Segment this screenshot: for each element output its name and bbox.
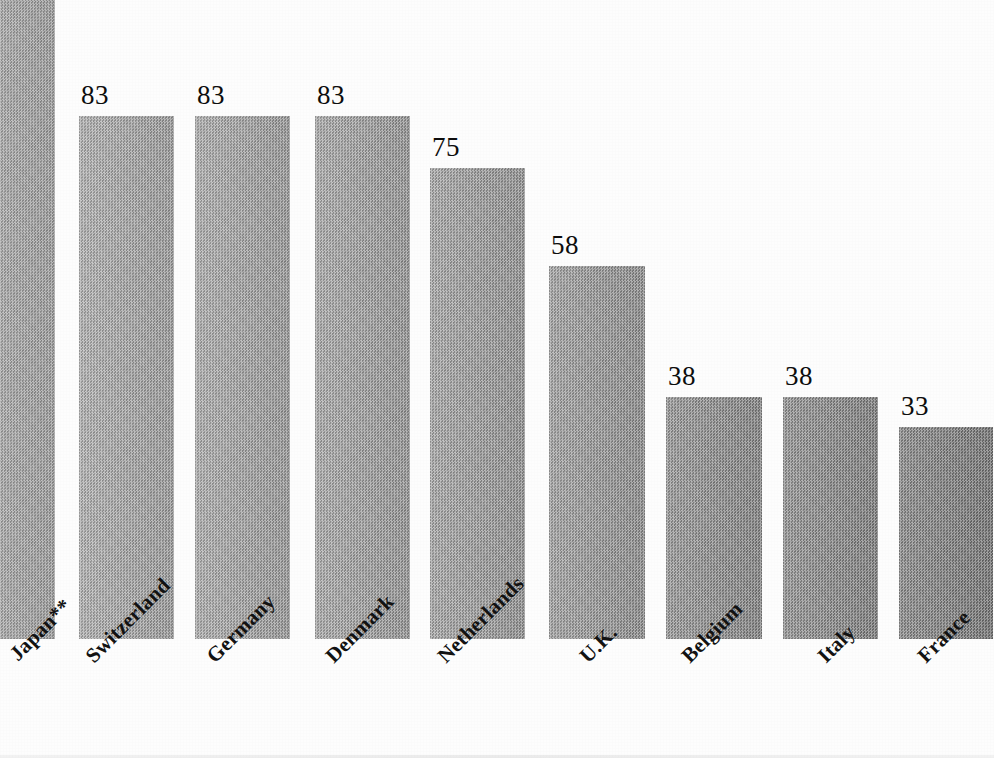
bar-shading <box>195 116 290 639</box>
bar <box>195 116 290 639</box>
category-axis-labels: Japan**SwitzerlandGermanyDenmarkNetherla… <box>0 640 994 758</box>
bar <box>549 266 645 639</box>
bar-value-label: 58 <box>551 232 579 259</box>
bar-value-label: 83 <box>197 82 225 109</box>
plot-area: 8383837558383833 <box>0 0 994 640</box>
bar <box>79 116 174 639</box>
bar-value-label: 33 <box>901 393 929 420</box>
bar-shading <box>315 116 410 639</box>
bar-chart: 8383837558383833 Japan**SwitzerlandGerma… <box>0 0 994 758</box>
bar <box>899 427 993 639</box>
bar-value-label: 83 <box>81 82 109 109</box>
bar <box>666 397 762 639</box>
bar-value-label: 83 <box>317 82 345 109</box>
bar-shading <box>0 0 55 639</box>
bar-shading <box>666 397 762 639</box>
bar <box>430 168 525 639</box>
bar-value-label: 38 <box>785 363 813 390</box>
bar-value-label: 38 <box>668 363 696 390</box>
bar <box>783 397 878 639</box>
bar-value-label: 75 <box>432 134 460 161</box>
bar-shading <box>783 397 878 639</box>
bar-shading <box>549 266 645 639</box>
bar-shading <box>79 116 174 639</box>
bar-shading <box>430 168 525 639</box>
bar <box>0 0 55 639</box>
bar <box>315 116 410 639</box>
bar-shading <box>899 427 993 639</box>
